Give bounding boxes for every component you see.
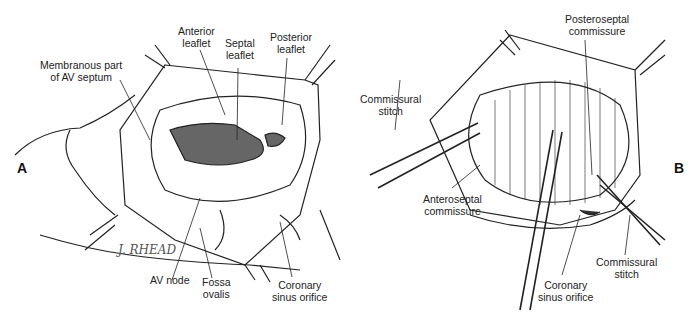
label-anteroseptal-commissure: Anteroseptal commissure	[423, 193, 482, 217]
label-posteroseptal-commissure: Posteroseptal commissure	[565, 13, 629, 37]
label-posterior-leaflet: Posterior leaflet	[270, 31, 312, 55]
panel-letter-a: A	[17, 160, 27, 176]
panel-letter-b: B	[674, 160, 684, 176]
label-coronary-sinus-b: Coronary sinus orifice	[538, 279, 593, 303]
label-anterior-leaflet: Anterior leaflet	[178, 25, 215, 49]
illustration	[0, 0, 697, 312]
label-coronary-sinus-a: Coronary sinus orifice	[272, 279, 327, 303]
artist-signature: J. RHEAD	[118, 243, 176, 257]
label-membranous-septum: Membranous part of AV septum	[40, 59, 122, 83]
label-commissural-stitch-right: Commissural stitch	[596, 256, 657, 280]
label-septal-leaflet: Septal leaflet	[225, 37, 255, 61]
label-fossa-ovalis: Fossa ovalis	[202, 276, 231, 300]
label-commissural-stitch-left: Commissural stitch	[360, 93, 421, 117]
label-av-node: AV node	[150, 274, 190, 286]
